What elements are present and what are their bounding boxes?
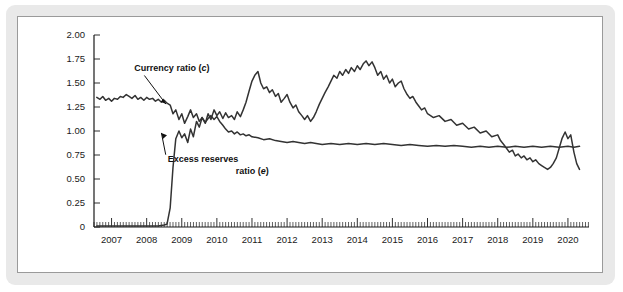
- series-line-excess-reserves: [97, 61, 580, 226]
- y-tick-label: 1.25: [67, 101, 86, 112]
- excess-reserves-label: Excess reservesratio (e): [161, 133, 268, 176]
- y-tick-label: 0.25: [67, 197, 86, 208]
- x-tick-label: 2016: [417, 234, 438, 245]
- x-tick-label: 2018: [487, 234, 508, 245]
- line-chart: 00.250.500.751.001.251.501.752.002007200…: [18, 17, 603, 273]
- excess-reserves-annotation-line1: Excess reserves: [168, 154, 239, 164]
- x-tick-label: 2009: [171, 234, 192, 245]
- x-tick-label: 2013: [312, 234, 333, 245]
- x-tick-label: 2010: [206, 234, 227, 245]
- y-tick-label: 1.75: [67, 53, 86, 64]
- x-tick-label: 2015: [382, 234, 403, 245]
- x-tick-label: 2019: [522, 234, 543, 245]
- x-tick-label: 2020: [557, 234, 578, 245]
- y-tick-label: 1.00: [67, 125, 86, 136]
- y-tick-label: 0.50: [67, 173, 86, 184]
- x-tick-label: 2012: [277, 234, 298, 245]
- x-tick-label: 2014: [347, 234, 368, 245]
- excess-reserves-annotation-line2: ratio (e): [236, 166, 269, 176]
- series-line-currency-ratio: [97, 95, 580, 148]
- figure-panel: 00.250.500.751.001.251.501.752.002007200…: [17, 16, 603, 273]
- figure-frame: 00.250.500.751.001.251.501.752.002007200…: [6, 5, 615, 285]
- currency-ratio-annotation-text: Currency ratio (c): [134, 63, 209, 73]
- x-tick-label: 2007: [101, 234, 122, 245]
- y-tick-label: 0: [80, 221, 85, 232]
- x-tick-label: 2017: [452, 234, 473, 245]
- x-tick-label: 2008: [136, 234, 157, 245]
- y-tick-label: 0.75: [67, 149, 86, 160]
- y-tick-label: 1.50: [67, 77, 86, 88]
- x-tick-label: 2011: [242, 234, 262, 245]
- y-tick-label: 2.00: [67, 29, 86, 40]
